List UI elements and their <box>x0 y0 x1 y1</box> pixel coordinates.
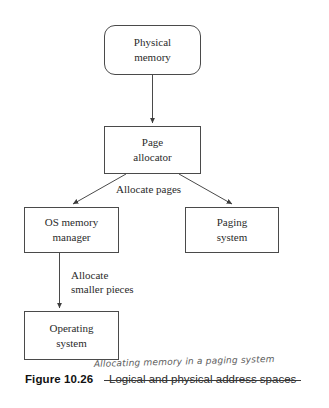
edge-label-allocate-smaller-pieces: Allocate smaller pieces <box>71 268 134 297</box>
figure-number-label: Figure 10.26 <box>25 373 93 385</box>
node-os-memory-manager: OS memory manager <box>24 207 119 253</box>
node-paging-system-line-2: system <box>217 230 248 245</box>
node-physical-memory-line-1: Physical <box>134 35 171 50</box>
edge-label-allocate-pages: Allocate pages <box>116 182 181 196</box>
edge-label-allocate-smaller-pieces-line-1: Allocate <box>71 268 134 282</box>
node-os-memory-manager-line-2: manager <box>53 230 91 245</box>
caption-strikethrough-line <box>104 380 301 381</box>
node-paging-system: Paging system <box>185 207 279 253</box>
node-paging-system-line-1: Paging <box>217 215 248 230</box>
edge-label-allocate-smaller-pieces-line-2: smaller pieces <box>71 282 134 296</box>
node-operating-system: Operating system <box>24 311 119 360</box>
handwritten-caption-correction: Allocating memory in a paging system <box>94 354 275 369</box>
node-operating-system-line-1: Operating <box>50 321 94 336</box>
edge-page-allocator-to-paging-system <box>179 174 232 204</box>
figure-caption-text: Logical and physical address spaces <box>109 373 296 385</box>
node-page-allocator: Page allocator <box>104 126 201 174</box>
node-physical-memory-line-2: memory <box>134 50 171 65</box>
node-page-allocator-line-2: allocator <box>133 150 171 165</box>
node-physical-memory: Physical memory <box>104 25 201 75</box>
figure-caption: Figure 10.26 Logical and physical addres… <box>25 372 315 394</box>
node-page-allocator-line-1: Page <box>142 135 163 150</box>
node-os-memory-manager-line-1: OS memory <box>45 215 98 230</box>
figure-container: Physical memory Page allocator OS memory… <box>0 0 329 408</box>
node-operating-system-line-2: system <box>56 336 87 351</box>
